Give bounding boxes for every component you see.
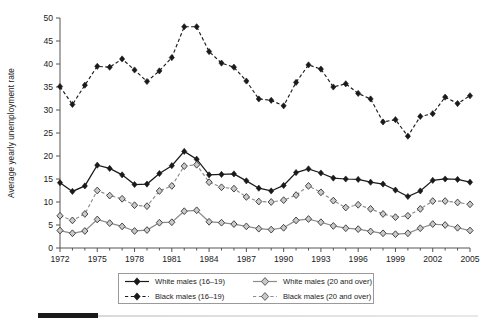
svg-text:2002: 2002 — [423, 254, 442, 264]
legend-label: White males (16–19) — [155, 276, 225, 287]
svg-text:1984: 1984 — [200, 254, 219, 264]
svg-text:2005: 2005 — [460, 254, 479, 264]
chart-legend: White males (16–19) White males (20 and … — [118, 273, 374, 304]
legend-item-white-20-over[interactable]: White males (20 and over) — [247, 274, 375, 289]
legend-item-black-20-over[interactable]: Black males (20 and over) — [247, 289, 375, 304]
legend-label: Black males (20 and over) — [283, 291, 371, 302]
legend-item-black-16-19[interactable]: Black males (16–19) — [119, 289, 247, 304]
chart-figure: 0510152025303540455019721975197819811984… — [0, 0, 486, 325]
svg-text:1999: 1999 — [386, 254, 405, 264]
legend-label: Black males (16–19) — [155, 291, 224, 302]
svg-text:10: 10 — [43, 197, 53, 207]
legend-sample-solid-gray-diamond — [252, 276, 278, 287]
legend-sample-solid-filled-diamond — [124, 276, 150, 287]
svg-text:20: 20 — [43, 151, 53, 161]
svg-text:5: 5 — [48, 220, 53, 230]
svg-text:1975: 1975 — [88, 254, 107, 264]
svg-text:Average yearly unemployment ra: Average yearly unemployment rate — [7, 68, 16, 198]
svg-text:1990: 1990 — [274, 254, 293, 264]
legend-item-white-16-19[interactable]: White males (16–19) — [119, 274, 247, 289]
footer-rule-marker — [38, 313, 98, 318]
svg-text:35: 35 — [43, 82, 53, 92]
svg-text:50: 50 — [43, 13, 53, 23]
svg-text:1993: 1993 — [311, 254, 330, 264]
svg-text:30: 30 — [43, 105, 53, 115]
svg-text:1987: 1987 — [237, 254, 256, 264]
svg-text:25: 25 — [43, 128, 53, 138]
footer-rule — [38, 315, 478, 317]
legend-label: White males (20 and over) — [283, 276, 372, 287]
svg-text:15: 15 — [43, 174, 53, 184]
svg-text:0: 0 — [48, 243, 53, 253]
svg-text:45: 45 — [43, 36, 53, 46]
svg-text:1996: 1996 — [349, 254, 368, 264]
svg-text:1972: 1972 — [50, 254, 69, 264]
svg-text:1981: 1981 — [162, 254, 181, 264]
svg-text:1978: 1978 — [125, 254, 144, 264]
svg-text:40: 40 — [43, 59, 53, 69]
legend-sample-dashed-gray-diamond — [252, 291, 278, 302]
legend-sample-dashed-filled-diamond — [124, 291, 150, 302]
